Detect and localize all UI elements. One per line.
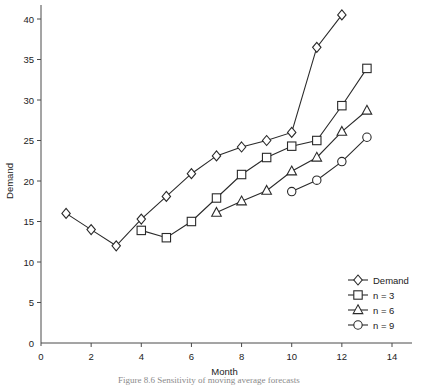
data-point [362,105,372,114]
data-point [162,234,170,242]
data-point [212,207,222,216]
legend-label: Demand [373,275,409,286]
legend-marker-triangle [353,305,363,314]
legend-label: n = 6 [373,305,394,316]
data-point [187,169,195,179]
data-point [212,151,220,161]
data-point [338,101,346,109]
x-tick-label: 12 [337,351,348,362]
caption-text: Figure 8.6 Sensitivity of moving average… [118,375,300,385]
series-line [141,68,367,237]
data-point [62,208,70,218]
axis-titles: MonthDemand [4,163,238,377]
data-point [338,157,346,165]
chart-figure: 051015202530354002468101214MonthDemandDe… [0,0,429,385]
y-tick-label: 35 [23,54,34,65]
y-tick-label: 10 [23,257,34,268]
data-point [162,191,170,201]
y-tick-label: 40 [23,14,34,25]
data-point [87,225,95,235]
data-point [313,176,321,184]
data-point [313,136,321,144]
x-tick-label: 4 [139,351,144,362]
data-point [337,126,347,135]
data-point [288,142,296,150]
x-axis-ticks: 02468101214 [38,343,397,362]
series-line [66,15,342,246]
y-axis-title: Demand [4,163,15,199]
data-point [212,194,220,202]
x-tick-label: 6 [189,351,194,362]
x-tick-label: 14 [387,351,398,362]
series-n-9 [288,133,372,196]
y-tick-label: 20 [23,176,34,187]
line-chart: 051015202530354002468101214MonthDemandDe… [0,0,429,385]
data-point [237,142,245,152]
data-point [288,187,296,195]
data-point [262,186,272,195]
x-tick-label: 10 [286,351,297,362]
x-tick-label: 0 [38,351,43,362]
y-tick-label: 25 [23,135,34,146]
y-tick-label: 15 [23,216,34,227]
data-point [288,127,296,137]
series-line [292,137,367,191]
series-n-6 [212,105,372,216]
data-point [262,136,270,146]
x-tick-label: 8 [239,351,244,362]
figure-caption: Figure 8.6 Sensitivity of moving average… [118,375,300,385]
data-point [187,217,195,225]
legend-label: n = 9 [373,320,394,331]
data-point [363,133,371,141]
legend: Demandn = 3n = 6n = 9 [348,275,409,331]
legend-marker-square [354,291,362,299]
y-tick-label: 5 [29,297,34,308]
data-point [237,170,245,178]
y-tick-label: 0 [29,338,34,349]
legend-label: n = 3 [373,290,394,301]
data-point [363,64,371,72]
legend-marker-diamond [354,275,362,285]
series-n-3 [137,64,371,242]
data-point [287,166,297,175]
x-tick-label: 2 [88,351,93,362]
legend-marker-circle [354,321,362,329]
data-point [137,226,145,234]
series-demand [62,10,346,251]
y-axis-ticks: 0510152025303540 [23,14,41,349]
y-tick-label: 30 [23,95,34,106]
data-point [262,153,270,161]
